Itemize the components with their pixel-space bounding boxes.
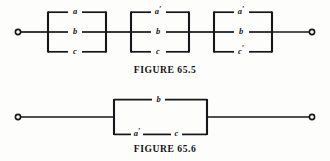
block-2-label-c: c (156, 46, 160, 56)
figure-65-5-diagram: a b c a′ b c (15, 4, 314, 56)
schematic-canvas: a b c a′ b c (0, 0, 330, 161)
block-3-label-c-prime: c′ (238, 43, 244, 56)
fig2-label-c: c (175, 128, 179, 138)
left-terminal-icon-2 (15, 114, 20, 119)
block-1-label-a: a (73, 6, 78, 16)
figure-65-5-caption: FIGURE 65.5 (0, 64, 330, 75)
parallel-block-2: a′ b c (131, 4, 189, 56)
parallel-block-1: a b c (48, 6, 106, 56)
block-1-label-b: b (73, 26, 77, 36)
fig2-label-b: b (156, 94, 160, 104)
block-3-label-a-prime: a′ (238, 4, 245, 17)
parallel-block-3: a′ b c′ (214, 4, 272, 56)
left-terminal-icon (15, 29, 20, 34)
figure-sheet: a b c a′ b c (0, 0, 330, 161)
right-terminal-icon-2 (309, 114, 314, 119)
right-terminal-icon (309, 29, 314, 34)
figure-65-6-caption: FIGURE 65.6 (0, 143, 330, 154)
block-2-label-b: b (156, 26, 160, 36)
block-3-label-b: b (239, 26, 243, 36)
block-1-label-c: c (73, 46, 77, 56)
fig2-label-a-prime: a′ (134, 126, 141, 139)
block-2-label-a-prime: a′ (155, 4, 162, 17)
figure-65-6-diagram: b a′ c (15, 94, 314, 139)
